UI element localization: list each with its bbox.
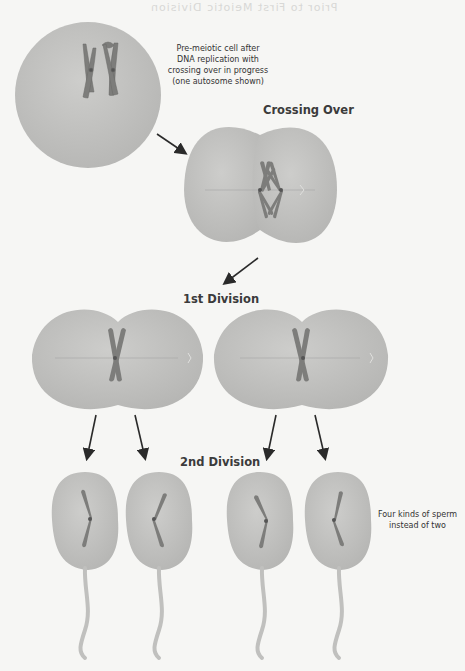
first-division-cell-left [32, 310, 203, 410]
note-line: Four kinds of sperm [370, 509, 465, 520]
note-line: crossing over in progress [153, 65, 283, 76]
arrow-to-sperm-3 [267, 415, 276, 458]
arrow-to-first-division [225, 258, 258, 283]
note-line: DNA replication with [153, 54, 283, 65]
premeiotic-cell [15, 22, 161, 168]
premeiotic-note: Pre-meiotic cell after DNA replication w… [153, 43, 283, 87]
sperm-cell [52, 472, 119, 658]
sperm-cell [227, 472, 294, 658]
note-line: Pre-meiotic cell after [153, 43, 283, 54]
note-line: instead of two [370, 520, 465, 531]
first-division-cell-right [214, 310, 388, 410]
first-division-title: 1st Division [183, 292, 259, 306]
meiosis-diagram [0, 0, 465, 671]
arrow-to-sperm-4 [315, 415, 325, 458]
sperm-cell [305, 472, 372, 658]
note-line: (one autosome shown) [153, 76, 283, 87]
arrow-to-sperm-1 [87, 415, 96, 458]
arrow-to-crossing-over [157, 134, 185, 153]
second-division-title: 2nd Division [180, 455, 260, 469]
sperm-cell [126, 472, 193, 658]
arrow-to-sperm-2 [135, 415, 145, 458]
crossing-over-title: Crossing Over [263, 103, 354, 117]
crossing-over-cell [184, 127, 337, 243]
result-note: Four kinds of sperm instead of two [370, 509, 465, 531]
